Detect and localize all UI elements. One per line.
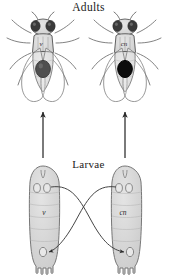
larva-right (111, 166, 141, 275)
adult-right-genotype-label: cn (113, 41, 135, 48)
adult-left-compound-eye-right (46, 21, 55, 32)
larva-left-implant-site (39, 247, 46, 256)
adult-left-eye-highlight-left (33, 23, 36, 27)
larva-right-eye-disc-anterior-inner (116, 184, 123, 193)
transplantation-figure: Adults Larvae (0, 0, 177, 280)
larva-left-eye-disc-anterior-outer (34, 184, 41, 193)
larva-left-eye-disc-anterior-inner (44, 184, 51, 193)
adult-fly-right (89, 12, 161, 102)
larva-right-body (111, 166, 141, 275)
diagram-canvas (0, 0, 177, 280)
adult-left-eye-highlight-right (48, 23, 51, 27)
larva-right-eye-disc-anterior-outer (126, 184, 133, 193)
larva-right-genotype-label: cn (112, 209, 134, 217)
adult-right-eye-highlight-right (130, 23, 133, 27)
adult-left-genotype-label: v (31, 41, 51, 48)
larva-left-genotype-label: v (35, 209, 53, 217)
adult-right-compound-eye-right (128, 21, 137, 32)
adult-left-transplanted-eye (36, 60, 51, 77)
adult-right-compound-eye-left (113, 21, 122, 32)
larva-left (29, 166, 59, 275)
development-arrows (43, 112, 125, 158)
adult-fly-left (7, 12, 79, 102)
larva-left-body (29, 166, 59, 275)
adult-left-transplanted-eye-highlight (39, 63, 43, 68)
adult-right-transplanted-eye (118, 60, 133, 77)
adult-right-eye-highlight-left (115, 23, 118, 27)
larva-right-implant-site (126, 247, 133, 256)
adult-left-compound-eye-left (31, 21, 40, 32)
